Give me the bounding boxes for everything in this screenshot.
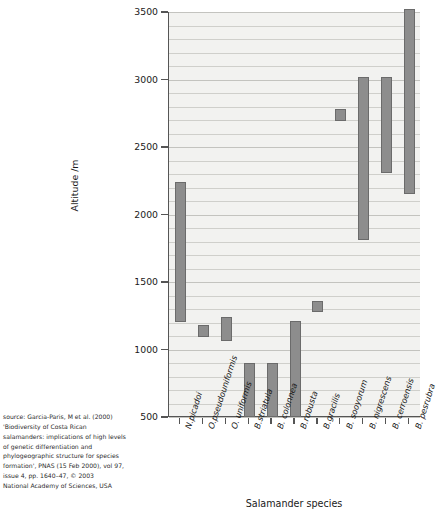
source-caption: source: Garcia-Paris, M et al. (2000) 'B… [3,412,125,491]
bar [198,325,209,337]
y-axis-tick-label: 3000 [0,74,168,85]
x-axis-tick [293,418,294,424]
caption-line: formation', PNAS (15 Feb 2000), vol 97, [3,461,125,471]
bar [335,109,346,121]
y-axis-tick-label: 2000 [0,209,168,220]
x-axis-tick [179,418,180,424]
x-axis-tick [202,418,203,424]
y-axis-tick-label: 2500 [0,141,168,152]
caption-line: National Academy of Sciences, USA [3,481,125,491]
y-axis-tick-label: 1000 [0,344,168,355]
y-axis-title: Altitude /m [69,106,80,266]
bar [404,9,415,194]
bar [175,182,186,322]
y-axis-tick-label: 1500 [0,276,168,287]
bars-layer [169,12,420,416]
x-axis-title: Salamander species [168,498,420,509]
plot-area [168,12,420,417]
caption-line: of genetic differentiation and [3,442,125,452]
caption-line: salamanders: implications of high levels [3,432,125,442]
x-axis-tick [339,418,340,424]
bar [358,77,369,240]
y-axis-tick-label: 3500 [0,6,168,17]
bar [221,317,232,341]
x-axis-tick [225,418,226,424]
bar [381,77,392,173]
caption-line: issue 4, pp. 1640–47, © 2003 [3,471,125,481]
x-axis-tick [385,418,386,424]
x-axis-tick [408,418,409,424]
x-axis-tick [270,418,271,424]
caption-line: 'Biodiversity of Costa Rican [3,422,125,432]
x-axis-tick [248,418,249,424]
bar [312,301,323,312]
x-axis-tick [316,418,317,424]
x-axis-tick [362,418,363,424]
caption-line: phylogeographic structure for species [3,451,125,461]
y-axis-tick-label: 500 [0,411,168,422]
